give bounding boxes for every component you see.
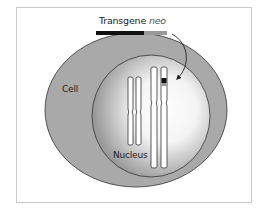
nucleus-label: Nucleus bbox=[113, 150, 147, 160]
cell-label: Cell bbox=[62, 84, 78, 94]
transgene-insertion-band bbox=[162, 78, 167, 86]
title-gene: neo bbox=[149, 15, 166, 26]
transgene-bar bbox=[96, 31, 167, 35]
title-prefix: Transgene bbox=[99, 15, 146, 26]
transgene-title: Transgene neo bbox=[99, 15, 166, 26]
cell-diagram bbox=[0, 0, 265, 215]
